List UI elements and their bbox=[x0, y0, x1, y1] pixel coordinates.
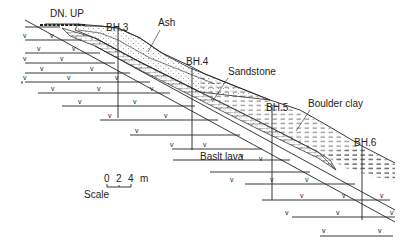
scale-tick-0: 0 bbox=[104, 173, 110, 184]
svg-text:v: v bbox=[23, 55, 27, 62]
bh3-label: BH.3 bbox=[106, 22, 129, 33]
basalt-bedding-lines bbox=[22, 27, 395, 236]
svg-text:v: v bbox=[135, 127, 139, 134]
svg-text:v: v bbox=[322, 227, 326, 234]
svg-text:v: v bbox=[203, 141, 207, 148]
svg-text:v: v bbox=[108, 112, 112, 119]
svg-text:v: v bbox=[67, 74, 71, 81]
stairs-label: DN. UP bbox=[50, 8, 84, 19]
svg-text:v: v bbox=[51, 85, 55, 92]
svg-text:v: v bbox=[23, 32, 27, 39]
ash-label: Ash bbox=[158, 17, 175, 28]
svg-text:v: v bbox=[37, 45, 41, 52]
svg-text:v: v bbox=[390, 209, 394, 216]
svg-text:v: v bbox=[170, 141, 174, 148]
basalt-top-boundary bbox=[25, 20, 395, 222]
svg-text:v: v bbox=[300, 192, 304, 199]
scale-bar: 0 2 4 m Scale bbox=[84, 173, 148, 200]
cross-section-diagram: v v v v v v v v v v v v v v v v v v v v … bbox=[0, 0, 415, 251]
scale-tick-4: 4 bbox=[128, 173, 134, 184]
svg-text:v: v bbox=[97, 85, 101, 92]
svg-text:v: v bbox=[230, 176, 234, 183]
svg-text:v: v bbox=[259, 155, 263, 162]
basalt-v-symbols: v v v v v v v v v v v v v v v v v v v v … bbox=[23, 32, 394, 234]
boulder-clay-label: Boulder clay bbox=[308, 98, 363, 109]
bh4-label: BH.4 bbox=[186, 56, 209, 67]
svg-text:v: v bbox=[133, 98, 137, 105]
svg-text:v: v bbox=[78, 98, 82, 105]
svg-text:v: v bbox=[164, 112, 168, 119]
svg-text:v: v bbox=[40, 65, 44, 72]
scale-tick-2: 2 bbox=[116, 173, 122, 184]
bh6-label: BH.6 bbox=[354, 137, 377, 148]
svg-text:v: v bbox=[378, 227, 382, 234]
sandstone-label: Sandstone bbox=[228, 66, 276, 77]
svg-text:v: v bbox=[380, 192, 384, 199]
basalt-lava-label: Baslt lava bbox=[200, 151, 244, 162]
scale-unit: m bbox=[140, 173, 148, 184]
svg-text:v: v bbox=[90, 65, 94, 72]
svg-text:v: v bbox=[23, 74, 27, 81]
svg-text:v: v bbox=[60, 55, 64, 62]
bh5-label: BH.5 bbox=[266, 102, 289, 113]
svg-text:v: v bbox=[336, 209, 340, 216]
svg-text:v: v bbox=[285, 209, 289, 216]
scale-label: Scale bbox=[84, 189, 109, 200]
svg-text:v: v bbox=[305, 176, 309, 183]
